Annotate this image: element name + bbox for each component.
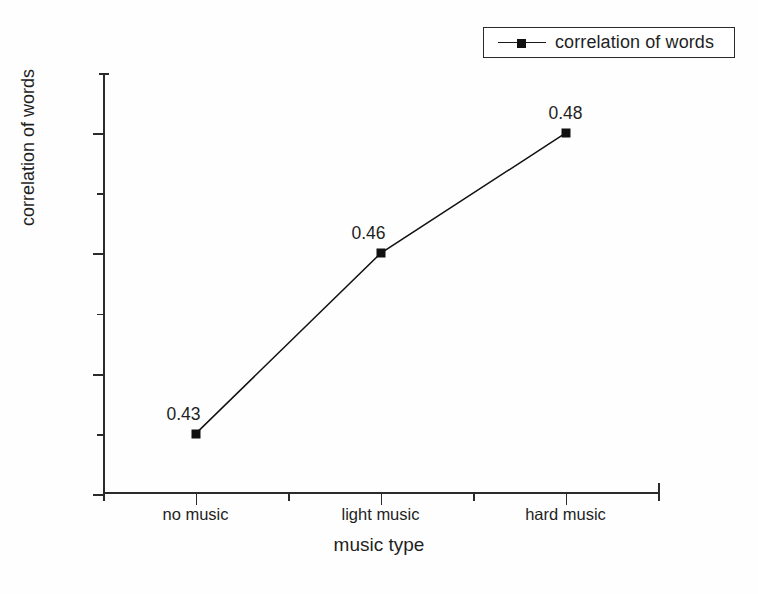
x-tick-major xyxy=(381,494,383,505)
legend: correlation of words xyxy=(483,27,735,58)
series-line xyxy=(103,73,660,494)
x-tick-major xyxy=(566,494,568,505)
legend-line-marker-icon xyxy=(498,36,546,50)
data-point-marker xyxy=(191,429,200,438)
data-point-marker xyxy=(376,249,385,258)
x-tick-major xyxy=(196,494,198,505)
x-tick-minor xyxy=(473,494,475,501)
x-tick-minor xyxy=(103,494,105,501)
chart-page: correlation of words 0.420.440.460.48 no… xyxy=(0,0,758,594)
x-tick-label: hard music xyxy=(525,505,606,524)
x-tick-label: light music xyxy=(342,505,420,524)
legend-entry-label: correlation of words xyxy=(555,32,714,53)
x-tick-minor xyxy=(658,494,660,501)
data-point-marker xyxy=(561,129,570,138)
data-point-value-label: 0.46 xyxy=(351,223,385,244)
data-point-value-label: 0.48 xyxy=(548,103,582,124)
y-axis-title: correlation of words xyxy=(18,196,39,226)
x-axis-title: music type xyxy=(0,534,758,556)
data-point-value-label: 0.43 xyxy=(166,404,200,425)
x-tick-minor xyxy=(288,494,290,501)
x-tick-label: no music xyxy=(162,505,228,524)
plot-area: 0.420.440.460.48 no musiclight musichard… xyxy=(103,73,660,494)
